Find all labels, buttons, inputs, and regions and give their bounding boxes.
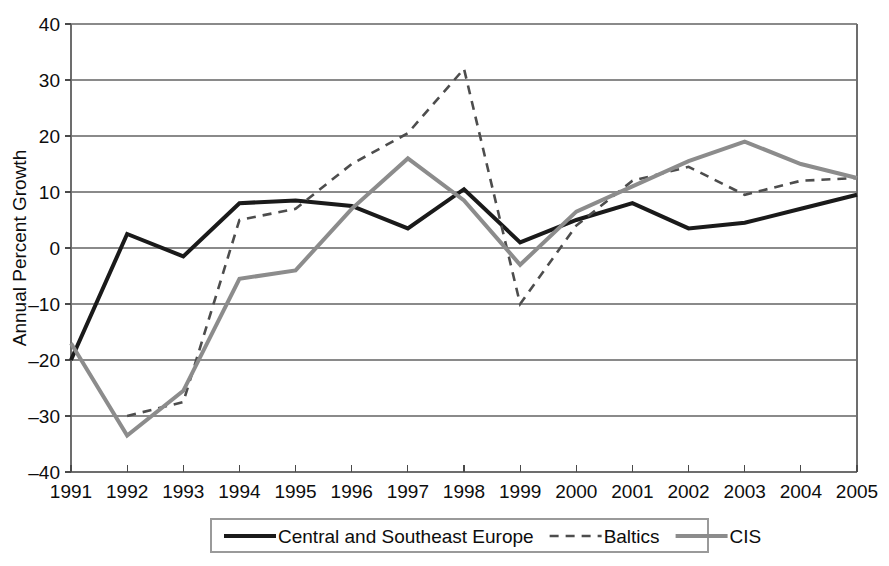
x-tick-label-2000: 2000 <box>555 481 597 502</box>
data-series-group <box>71 69 857 436</box>
y-tick-marks <box>65 24 71 472</box>
y-tick-label-30: 30 <box>39 70 60 91</box>
x-tick-label-1999: 1999 <box>499 481 541 502</box>
x-tick-label-1996: 1996 <box>331 481 373 502</box>
y-tick-label--20: –20 <box>28 350 60 371</box>
x-tick-label-1993: 1993 <box>162 481 204 502</box>
y-tick-label-0: 0 <box>49 238 60 259</box>
legend-item-cis: CIS <box>676 526 762 547</box>
x-tick-label-1997: 1997 <box>387 481 429 502</box>
x-axis-tick-labels: 1991199219931994199519961997199819992000… <box>50 481 878 502</box>
x-tick-label-1992: 1992 <box>106 481 148 502</box>
y-axis-tick-labels: 403020100–10–20–30–40 <box>28 14 60 483</box>
series-line-cis <box>71 142 857 436</box>
x-tick-label-1991: 1991 <box>50 481 92 502</box>
legend-item-baltics: Baltics <box>550 526 660 547</box>
x-tick-label-2001: 2001 <box>611 481 653 502</box>
line-chart: 403020100–10–20–30–40 199119921993199419… <box>0 0 889 566</box>
y-tick-label-20: 20 <box>39 126 60 147</box>
x-tick-label-2004: 2004 <box>780 481 823 502</box>
x-tick-label-1998: 1998 <box>443 481 485 502</box>
legend-label-cis: CIS <box>730 526 762 547</box>
gridlines <box>71 24 857 472</box>
series-line-central-and-southeast-europe <box>71 189 857 360</box>
legend-label-baltics: Baltics <box>604 526 660 547</box>
legend: Central and Southeast EuropeBalticsCIS <box>211 519 761 552</box>
x-tick-label-2002: 2002 <box>667 481 709 502</box>
y-tick-label--40: –40 <box>28 462 60 483</box>
legend-label-central-and-southeast-europe: Central and Southeast Europe <box>278 526 534 547</box>
x-tick-label-2003: 2003 <box>724 481 766 502</box>
y-axis-title: Annual Percent Growth <box>9 150 30 346</box>
x-tick-label-1994: 1994 <box>218 481 261 502</box>
y-tick-label-40: 40 <box>39 14 60 35</box>
x-tick-label-2005: 2005 <box>836 481 878 502</box>
y-tick-label--10: –10 <box>28 294 60 315</box>
series-line-baltics <box>127 69 857 416</box>
y-tick-label-10: 10 <box>39 182 60 203</box>
y-tick-label--30: –30 <box>28 406 60 427</box>
x-tick-marks <box>71 465 857 472</box>
x-tick-label-1995: 1995 <box>274 481 316 502</box>
chart-container: 403020100–10–20–30–40 199119921993199419… <box>0 0 889 566</box>
legend-item-central-and-southeast-europe: Central and Southeast Europe <box>224 526 534 547</box>
